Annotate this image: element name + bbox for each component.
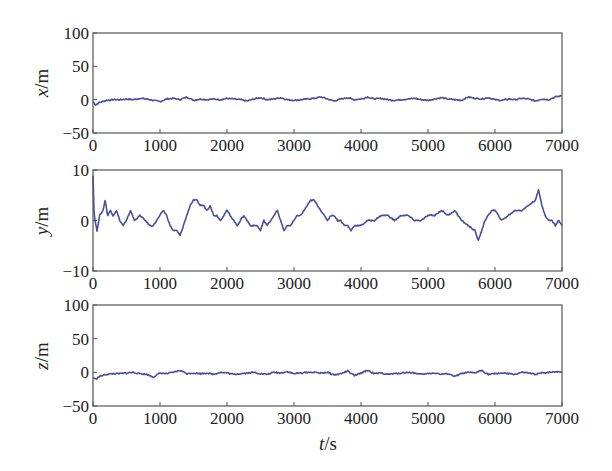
ytick-label: −50 xyxy=(62,397,89,416)
ytick-label: 0 xyxy=(81,363,90,382)
xtick-label: 6000 xyxy=(478,409,512,428)
xtick-label: 4000 xyxy=(344,274,378,293)
trace-y xyxy=(93,176,562,241)
ytick-label: −10 xyxy=(62,262,89,281)
plot-frame-z xyxy=(93,305,562,406)
xlabel-t: t/s xyxy=(319,433,337,454)
ytick-label: 0 xyxy=(81,212,90,231)
xtick-label: 3000 xyxy=(277,409,311,428)
xtick-label: 4000 xyxy=(344,136,378,155)
ytick-label: 50 xyxy=(72,330,89,349)
xtick-label: 7000 xyxy=(545,409,579,428)
yticks-y: −10010 xyxy=(62,161,97,281)
xtick-label: 6000 xyxy=(478,274,512,293)
ylabel-y: y/m xyxy=(31,207,52,238)
xtick-label: 7000 xyxy=(545,274,579,293)
chart-figure: x/m −50050100 01000200030004000500060007… xyxy=(0,0,612,471)
xtick-label: 2000 xyxy=(210,136,244,155)
xtick-label: 7000 xyxy=(545,136,579,155)
subplot-y: y/m −10010 01000200030004000500060007000 xyxy=(31,161,579,293)
xtick-label: 5000 xyxy=(411,136,445,155)
ytick-label: 10 xyxy=(72,161,89,180)
xtick-label: 5000 xyxy=(411,409,445,428)
xtick-label: 1000 xyxy=(143,409,177,428)
yticks-x: −50050100 xyxy=(62,24,97,143)
subplot-x: x/m −50050100 01000200030004000500060007… xyxy=(31,24,579,155)
trace-z xyxy=(93,370,562,379)
ytick-label: 100 xyxy=(64,24,90,43)
xtick-label: 4000 xyxy=(344,409,378,428)
trace-x xyxy=(93,96,562,106)
xtick-label: 1000 xyxy=(143,136,177,155)
xtick-label: 2000 xyxy=(210,409,244,428)
subplot-z: z/m −50050100 01000200030004000500060007… xyxy=(31,296,579,428)
xtick-label: 5000 xyxy=(411,274,445,293)
xtick-label: 0 xyxy=(89,409,98,428)
plot-frame-x xyxy=(93,33,562,133)
xtick-label: 3000 xyxy=(277,136,311,155)
xtick-label: 6000 xyxy=(478,136,512,155)
yticks-z: −50050100 xyxy=(62,296,97,416)
xtick-label: 0 xyxy=(89,136,98,155)
ytick-label: 100 xyxy=(64,296,90,315)
ytick-label: 0 xyxy=(81,91,90,110)
ylabel-x: x/m xyxy=(31,69,52,99)
xtick-label: 0 xyxy=(89,274,98,293)
xtick-label: 1000 xyxy=(143,274,177,293)
ytick-label: 50 xyxy=(72,57,89,76)
ytick-label: −50 xyxy=(62,124,89,143)
xtick-label: 3000 xyxy=(277,274,311,293)
xtick-label: 2000 xyxy=(210,274,244,293)
ylabel-z: z/m xyxy=(31,342,52,371)
